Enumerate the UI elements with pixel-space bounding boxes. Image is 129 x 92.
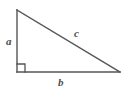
triangle-drawing [0,0,129,92]
side-label-a: a [6,36,12,47]
figure-background [0,0,129,92]
right-triangle-figure: a b c [0,0,129,92]
side-label-c: c [74,28,79,39]
side-label-b: b [58,77,64,88]
